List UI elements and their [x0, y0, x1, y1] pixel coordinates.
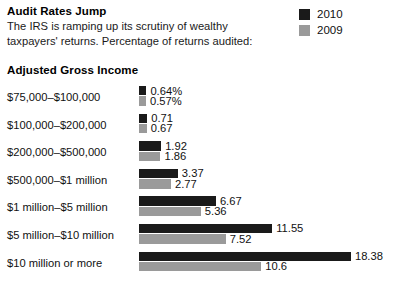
- chart-bar-value-2009: 2.77: [175, 177, 197, 191]
- chart-bar-2009: [139, 262, 261, 271]
- chart-bar-value-2010: 11.55: [276, 221, 303, 235]
- chart-row-bars: 0.710.67: [139, 114, 394, 135]
- chart-bar-2010: [139, 252, 351, 261]
- chart-subtitle: The IRS is ramping up its scrutiny of we…: [7, 19, 307, 49]
- chart-bar-2010: [139, 86, 146, 95]
- chart-row-label: $100,000–$200,000: [7, 118, 135, 132]
- chart-bar-line: 1.86: [139, 152, 394, 161]
- chart-bar-2010: [139, 114, 147, 123]
- chart-bar-2009: [139, 124, 147, 133]
- chart-bar-2009: [139, 207, 201, 216]
- legend-label-2009: 2009: [317, 24, 343, 37]
- chart-bar-value-2009: 5.36: [205, 204, 227, 218]
- chart-bar-2009: [139, 179, 171, 188]
- legend-item-2009: 2009: [299, 22, 385, 38]
- chart-row-bars: 11.557.52: [139, 224, 394, 245]
- chart-bar-2009: [139, 234, 226, 243]
- chart-row: $1 million–$5 million6.675.36: [0, 194, 394, 222]
- chart-row: $100,000–$200,0000.710.67: [0, 112, 394, 140]
- chart-bar-2010: [139, 224, 272, 233]
- chart-bar-line: 0.71: [139, 114, 394, 123]
- chart-row-label: $5 million–$10 million: [7, 228, 135, 242]
- chart-row: $75,000–$100,0000.64%0.57%: [0, 84, 394, 112]
- chart-bar-line: 6.67: [139, 196, 394, 205]
- legend-swatch-icon-2010: [299, 9, 310, 20]
- chart-bar-value-2010: 18.38: [355, 249, 383, 263]
- chart-bar-line: 10.6: [139, 262, 394, 271]
- axis-heading-adjusted-gross-income: Adjusted Gross Income: [7, 64, 138, 76]
- chart-header: Audit Rates Jump The IRS is ramping up i…: [7, 4, 307, 49]
- chart-plot-area: $75,000–$100,0000.64%0.57%$100,000–$200,…: [0, 84, 394, 277]
- chart-row-bars: 6.675.36: [139, 196, 394, 217]
- chart-bar-line: 11.55: [139, 224, 394, 233]
- chart-legend: 2010 2009: [299, 6, 385, 38]
- chart-row-bars: 0.64%0.57%: [139, 86, 394, 107]
- chart-bar-value-2009: 1.86: [164, 149, 186, 163]
- chart-bar-line: 2.77: [139, 179, 394, 188]
- chart-bar-2010: [139, 169, 178, 178]
- chart-row: $10 million or more18.3810.6: [0, 250, 394, 278]
- chart-row: $5 million–$10 million11.557.52: [0, 222, 394, 250]
- chart-bar-value-2009: 0.67: [151, 121, 173, 135]
- chart-bar-2010: [139, 141, 161, 150]
- legend-swatch-icon-2009: [299, 25, 310, 36]
- page-title: Audit Rates Jump: [7, 4, 307, 18]
- chart-bar-2009: [139, 152, 160, 161]
- audit-rates-chart-card: Audit Rates Jump The IRS is ramping up i…: [0, 0, 394, 301]
- chart-bar-value-2009: 0.57%: [150, 94, 182, 108]
- chart-bar-2009: [139, 96, 146, 105]
- chart-row-bars: 18.3810.6: [139, 252, 394, 273]
- chart-bar-line: 5.36: [139, 207, 394, 216]
- chart-row-label: $200,000–$500,000: [7, 145, 135, 159]
- chart-row-label: $75,000–$100,000: [7, 90, 135, 104]
- chart-bar-value-2009: 7.52: [230, 232, 252, 246]
- chart-subtitle-line-2: taxpayers' returns. Percentage of return…: [7, 34, 307, 49]
- chart-row-label: $10 million or more: [7, 256, 135, 270]
- chart-row-bars: 3.372.77: [139, 169, 394, 190]
- chart-bar-line: 0.57%: [139, 96, 394, 105]
- legend-item-2010: 2010: [299, 6, 385, 22]
- chart-bar-value-2009: 10.6: [265, 259, 287, 273]
- chart-bar-line: 0.67: [139, 124, 394, 133]
- chart-row-label: $1 million–$5 million: [7, 200, 135, 214]
- legend-label-2010: 2010: [317, 8, 343, 21]
- chart-row-label: $500,000–$1 million: [7, 173, 135, 187]
- chart-bar-line: 7.52: [139, 234, 394, 243]
- chart-row: $200,000–$500,0001.921.86: [0, 139, 394, 167]
- chart-subtitle-line-1: The IRS is ramping up its scrutiny of we…: [7, 19, 307, 34]
- chart-row: $500,000–$1 million3.372.77: [0, 167, 394, 195]
- chart-row-bars: 1.921.86: [139, 141, 394, 162]
